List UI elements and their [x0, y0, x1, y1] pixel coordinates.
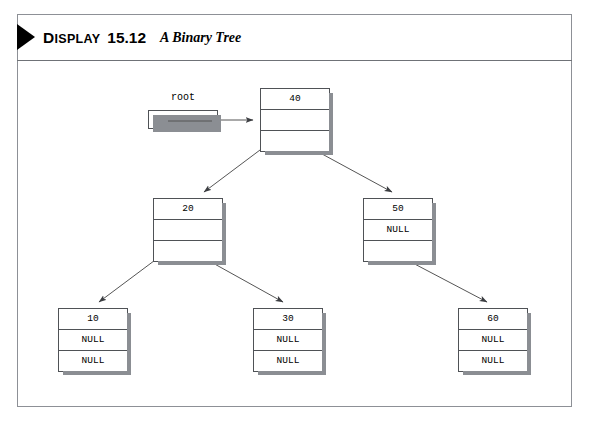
tree-node-10[interactable]: 10 NULL NULL: [58, 308, 128, 372]
node-10-left-pointer: NULL: [59, 330, 127, 351]
tree-node-40[interactable]: 40: [260, 88, 330, 152]
display-title: A Binary Tree: [160, 30, 241, 46]
node-50-value: 50: [364, 199, 432, 220]
display-kicker: DISPLAY: [43, 29, 100, 47]
node-20-left-pointer: [154, 220, 222, 241]
tree-node-60[interactable]: 60 NULL NULL: [458, 308, 528, 372]
node-40-left-pointer: [261, 110, 329, 131]
display-header: DISPLAY 15.12 A Binary Tree: [17, 14, 572, 61]
node-40-value: 40: [261, 89, 329, 110]
tree-node-50[interactable]: 50 NULL: [363, 198, 433, 262]
root-pointer-box: [148, 110, 218, 129]
node-30-left-pointer: NULL: [254, 330, 322, 351]
node-30-value: 30: [254, 309, 322, 330]
node-50-left-pointer: NULL: [364, 220, 432, 241]
node-50-right-pointer: [364, 241, 432, 261]
node-30-right-pointer: NULL: [254, 351, 322, 371]
node-10-value: 10: [59, 309, 127, 330]
node-20-right-pointer: [154, 241, 222, 261]
node-60-left-pointer: NULL: [459, 330, 527, 351]
tree-node-30[interactable]: 30 NULL NULL: [253, 308, 323, 372]
node-20-value: 20: [154, 199, 222, 220]
node-40-right-pointer: [261, 131, 329, 151]
display-figure-page: DISPLAY 15.12 A Binary Tree root 40: [0, 0, 589, 422]
tree-node-20[interactable]: 20: [153, 198, 223, 262]
node-60-value: 60: [459, 309, 527, 330]
display-kicker-rest: ISPLAY: [55, 32, 101, 46]
display-header-inner: DISPLAY 15.12 A Binary Tree: [17, 14, 241, 61]
display-number: 15.12: [107, 29, 146, 47]
node-10-right-pointer: NULL: [59, 351, 127, 371]
triangle-marker-icon: [17, 24, 35, 50]
node-60-right-pointer: NULL: [459, 351, 527, 371]
root-pointer-label: root: [148, 92, 218, 103]
display-kicker-first: D: [43, 29, 55, 46]
